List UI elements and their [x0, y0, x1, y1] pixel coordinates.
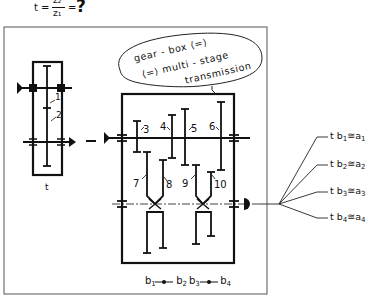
input-arrow-icon [104, 132, 110, 144]
gear-label-9: 9 [182, 179, 188, 189]
output-relation-1: t b1≅a1 [330, 131, 366, 143]
input-arrow-icon [17, 82, 23, 94]
gear-label-2: 2 [56, 111, 62, 120]
gear-label-6: 6 [209, 122, 215, 132]
output-relation-2: t b2≅a2 [330, 159, 366, 171]
formula-denominator: z₁ [53, 9, 61, 18]
bearing-icon [57, 84, 65, 92]
shift-group-b3-b4: b3 b4 [189, 276, 231, 288]
gear-label-10: 10 [214, 180, 227, 190]
gear-label-8: 8 [166, 180, 172, 190]
gear-label-5: 5 [191, 124, 197, 134]
output-fan [260, 137, 328, 218]
left-gearbox-label: t [45, 183, 49, 192]
bearing-icon [29, 84, 37, 92]
output-arrow-icon [69, 137, 76, 147]
formula-lhs: t = [34, 3, 49, 13]
output-relation-3: t b3≅a3 [330, 186, 366, 198]
formula-result: ? [76, 0, 86, 15]
output-relation-4: t b4≅a4 [330, 212, 366, 224]
gear-label-4: 4 [160, 122, 166, 132]
left-gearbox [17, 62, 76, 175]
shift-group-b1-b2: b1 b2 [145, 276, 187, 288]
formula-numerator: z₂ [53, 0, 61, 5]
gear-label-3: 3 [143, 125, 149, 135]
gear-label-1: 1 [55, 93, 61, 102]
right-gearbox [104, 94, 262, 284]
gear-label-7: 7 [133, 179, 139, 189]
output-arrow-icon [244, 198, 250, 210]
